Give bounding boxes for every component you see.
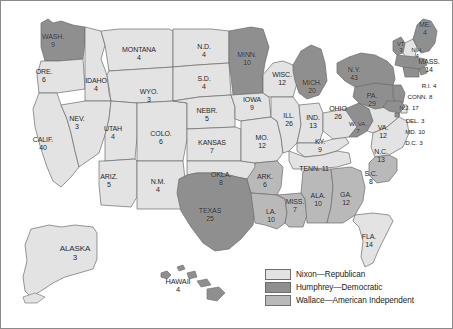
- state-ny[interactable]: [337, 53, 395, 87]
- state-wi[interactable]: [263, 61, 297, 97]
- island-hi: [187, 271, 197, 279]
- state-sc[interactable]: [369, 155, 397, 183]
- state-ma[interactable]: [395, 55, 427, 69]
- state-tx[interactable]: [177, 173, 255, 251]
- state-la[interactable]: [251, 193, 287, 229]
- state-wa[interactable]: [41, 19, 85, 61]
- state-hi[interactable]: [161, 271, 171, 279]
- state-ia[interactable]: [231, 93, 271, 121]
- state-shapes-group: [23, 19, 437, 303]
- state-fl[interactable]: [353, 213, 393, 267]
- legend-swatch-humphrey: [265, 282, 291, 293]
- state-mi[interactable]: [293, 45, 327, 99]
- legend-item-wallace[interactable]: Wallace—American Independent: [265, 295, 414, 306]
- legend-label-wallace: Wallace—American Independent: [296, 296, 414, 305]
- electoral-map-figure: WASH.9ORE.6CALIF.40IDAHO4NEV.3MONTANA4WY…: [0, 0, 453, 329]
- state-wy[interactable]: [107, 67, 173, 103]
- legend-swatch-nixon: [265, 269, 291, 280]
- state-co[interactable]: [137, 101, 187, 161]
- island-hi: [197, 279, 211, 287]
- state-dc[interactable]: [395, 113, 399, 117]
- island-ak: [23, 293, 45, 303]
- state-in[interactable]: [297, 103, 323, 143]
- state-or[interactable]: [37, 59, 85, 93]
- legend-label-humphrey: Humphrey—Democratic: [296, 283, 382, 292]
- legend-swatch-wallace: [265, 295, 291, 306]
- state-az[interactable]: [99, 159, 137, 207]
- legend-label-nixon: Nixon—Republican: [296, 270, 365, 279]
- legend-item-humphrey[interactable]: Humphrey—Democratic: [265, 282, 414, 293]
- state-ks[interactable]: [187, 127, 241, 161]
- map-legend: Nixon—RepublicanHumphrey—DemocraticWalla…: [265, 269, 414, 306]
- state-mt[interactable]: [101, 29, 173, 71]
- state-ct[interactable]: [403, 67, 419, 77]
- state-ak[interactable]: [23, 225, 97, 297]
- island-hi: [177, 265, 185, 271]
- legend-item-nixon[interactable]: Nixon—Republican: [265, 269, 414, 280]
- state-nd[interactable]: [173, 29, 229, 67]
- island-hi: [207, 287, 225, 301]
- state-ut[interactable]: [105, 101, 137, 161]
- state-mo[interactable]: [241, 117, 283, 163]
